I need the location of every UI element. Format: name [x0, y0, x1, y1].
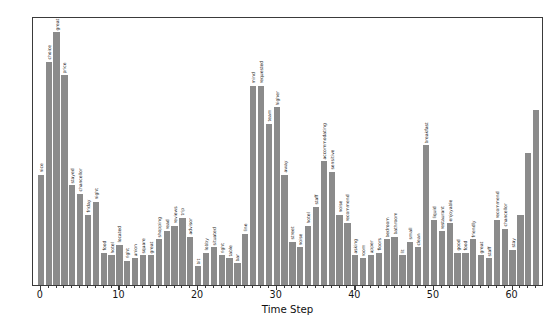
bar: square	[140, 255, 146, 285]
bar-value-label: lobby	[205, 238, 210, 250]
bar: noise	[297, 247, 303, 285]
bar-value-label: team	[268, 110, 273, 122]
bar: hotel	[305, 226, 311, 285]
bar: away	[281, 175, 287, 285]
bar: right	[124, 261, 130, 285]
bar-value-label: night	[95, 188, 100, 200]
bar: situated	[211, 247, 217, 285]
bar-value-label: requested	[260, 61, 265, 84]
x-tick-label: 0	[37, 289, 43, 300]
bar: bedroom	[384, 239, 390, 285]
x-tick-label: 20	[191, 289, 203, 300]
bar-value-label: room	[362, 244, 367, 256]
bar-value-label: floors	[378, 238, 383, 251]
bar-series: nicechoicegreatpricestayedchancellorfrid…	[33, 18, 542, 285]
x-axis-title: Time Step	[32, 304, 543, 315]
bar-value-label: away	[284, 161, 289, 173]
bar: union	[132, 258, 138, 285]
bar-value-label: hotel	[111, 242, 116, 253]
bar-value-label: chancellor	[504, 203, 509, 226]
bar	[517, 215, 523, 285]
bar: sensitive	[329, 172, 335, 285]
bar-value-label: hotel	[307, 212, 312, 223]
bar: room	[360, 258, 366, 285]
bar-value-label: asking	[354, 239, 359, 254]
bar-value-label: read	[166, 219, 171, 229]
bar-value-label: friday	[87, 200, 92, 213]
bar: team	[266, 124, 272, 285]
x-axis-tick-labels: 0102030405060	[32, 289, 543, 303]
bar: staff	[313, 207, 319, 285]
bar: located	[116, 245, 122, 285]
bar: higher	[274, 107, 280, 285]
bar-value-label: stay	[512, 239, 517, 249]
bar-value-label: right	[126, 248, 131, 259]
bar-value-label: liquid	[433, 206, 438, 218]
bar: shopping	[156, 239, 162, 285]
bar-value-label: choice	[48, 45, 53, 60]
bar: stay	[509, 250, 515, 285]
bar: floors	[376, 253, 382, 285]
bar: trip	[179, 218, 185, 285]
bar: great	[53, 32, 59, 285]
bar-value-label: stayed	[71, 168, 76, 183]
bar-value-label: line	[244, 224, 249, 232]
bar: upper	[368, 255, 374, 285]
bar-value-label: higher	[276, 91, 281, 105]
bar-value-label: union	[134, 244, 139, 257]
bar: night	[93, 202, 99, 285]
bar: bar	[234, 263, 240, 285]
bar: street	[289, 242, 295, 285]
bar-value-label: staff	[488, 246, 493, 256]
bar-value-label: nice	[40, 163, 45, 172]
screenshot-root: nicechoicegreatpricestayedchancellorfrid…	[0, 0, 560, 330]
bar	[533, 110, 539, 285]
bar-value-label: noise	[339, 201, 344, 213]
bar-value-label: food	[464, 241, 469, 251]
bar-value-label: chancellor	[79, 168, 84, 191]
bar-value-label: recommend	[496, 191, 501, 218]
bar-value-label: restaurant	[441, 206, 446, 229]
bar-value-label: small	[409, 228, 414, 240]
bar: chancellor	[77, 194, 83, 285]
bar-value-label: upper	[370, 240, 375, 253]
bar-value-label: situated	[213, 227, 218, 245]
bar-value-label: great	[150, 242, 155, 254]
bar-value-label: food	[103, 241, 108, 251]
bar: food	[101, 253, 107, 285]
bar: small	[407, 242, 413, 285]
x-tick-label: 40	[348, 289, 360, 300]
bar: bit	[195, 266, 201, 285]
bar-value-label: breakfast	[425, 122, 430, 143]
bar: chancellor	[502, 229, 508, 285]
bar-value-label: staff	[315, 195, 320, 205]
bar	[525, 153, 531, 285]
bar-value-label: enjoyable	[449, 199, 454, 221]
bar-value-label: clean	[417, 233, 422, 245]
bar: line	[242, 234, 248, 285]
bar: table	[226, 258, 232, 285]
bar-value-label: great	[480, 242, 485, 254]
bar-value-label: accommodating	[323, 123, 328, 159]
bar: mind	[250, 86, 256, 285]
bar-value-label: friendly	[472, 220, 477, 237]
bar: friendly	[470, 239, 476, 285]
bar: recommend	[494, 220, 500, 285]
bar-value-label: bit	[197, 258, 202, 264]
bar: friday	[85, 215, 91, 285]
bar: clean	[415, 247, 421, 285]
bar-value-label: square	[142, 238, 147, 253]
bar: read	[164, 231, 170, 285]
bar: right	[219, 255, 225, 285]
chart-figure: nicechoicegreatpricestayedchancellorfrid…	[0, 0, 560, 330]
bar: recommend	[344, 223, 350, 285]
bar: great	[478, 255, 484, 285]
bar: requested	[258, 86, 264, 285]
bar: noise	[336, 215, 342, 285]
bar: reviews	[171, 226, 177, 285]
bar-value-label: sensitive	[331, 150, 336, 170]
bar-value-label: noise	[299, 233, 304, 245]
x-tick-label: 60	[505, 289, 517, 300]
bar-value-label: bar	[236, 254, 241, 261]
bar: great	[148, 255, 154, 285]
